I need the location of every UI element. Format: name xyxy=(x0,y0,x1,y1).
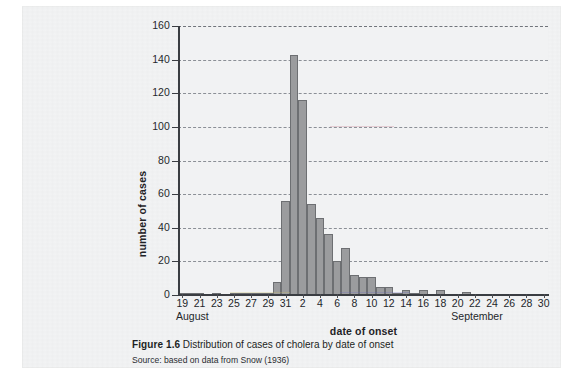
y-tick-mark xyxy=(172,194,179,195)
y-tick-mark xyxy=(172,295,179,296)
x-tick-mark xyxy=(544,294,545,298)
month-label: August xyxy=(176,310,209,322)
x-tick-mark xyxy=(337,294,338,298)
x-tick-mark xyxy=(320,294,321,298)
y-tick-label: 100 xyxy=(130,120,170,132)
y-tick-mark xyxy=(172,228,179,229)
x-tick-mark xyxy=(406,294,407,298)
bar xyxy=(333,261,342,295)
y-tick-mark xyxy=(172,93,179,94)
y-tick-mark xyxy=(172,26,179,27)
x-tick-mark xyxy=(509,294,510,298)
x-tick-mark xyxy=(217,294,218,298)
y-tick-label: 0 xyxy=(130,288,170,300)
figure-caption: Figure 1.6 Distribution of cases of chol… xyxy=(132,339,532,350)
y-axis-title: number of cases xyxy=(136,144,148,284)
y-tick-label: 160 xyxy=(130,19,170,31)
bar xyxy=(350,275,359,295)
x-tick-mark xyxy=(423,294,424,298)
figure-page: 020406080100120140160 number of cases 19… xyxy=(0,0,577,374)
bar xyxy=(341,248,350,295)
y-tick-label: 140 xyxy=(130,53,170,65)
y-tick-label: 120 xyxy=(130,86,170,98)
y-axis-title-holder: number of cases xyxy=(112,90,132,230)
x-tick-mark xyxy=(286,294,287,298)
y-tick-mark xyxy=(172,127,179,128)
x-tick-label: 30 xyxy=(532,297,556,309)
figure-number: Figure 1.6 xyxy=(132,339,180,350)
y-tick-mark xyxy=(172,60,179,61)
x-tick-mark xyxy=(475,294,476,298)
figure-source: Source: based on data from Snow (1936) xyxy=(132,355,289,365)
bar xyxy=(281,201,290,295)
x-tick-mark xyxy=(492,294,493,298)
bars-group xyxy=(178,26,548,295)
x-tick-mark xyxy=(389,294,390,298)
x-tick-mark xyxy=(303,294,304,298)
month-label: September xyxy=(451,310,502,322)
bar xyxy=(273,282,282,295)
x-tick-mark xyxy=(251,294,252,298)
x-tick-mark xyxy=(440,294,441,298)
bar xyxy=(324,234,333,295)
y-tick-mark xyxy=(172,161,179,162)
x-axis-title: date of onset xyxy=(178,325,549,337)
x-tick-mark xyxy=(268,294,269,298)
x-tick-mark xyxy=(354,294,355,298)
bar xyxy=(290,55,299,295)
bar xyxy=(316,218,325,295)
y-tick-mark xyxy=(172,261,179,262)
chart-plot-area xyxy=(178,26,548,295)
x-tick-mark xyxy=(234,294,235,298)
x-tick-mark xyxy=(526,294,527,298)
x-tick-mark xyxy=(200,294,201,298)
bar xyxy=(298,100,307,295)
bar xyxy=(359,277,368,295)
x-tick-mark xyxy=(182,294,183,298)
bar xyxy=(367,277,376,295)
bar xyxy=(307,204,316,295)
x-tick-mark xyxy=(458,294,459,298)
y-axis-tick-labels: 020406080100120140160 xyxy=(126,0,170,374)
x-tick-mark xyxy=(372,294,373,298)
figure-caption-text: Distribution of cases of cholera by date… xyxy=(183,339,394,350)
